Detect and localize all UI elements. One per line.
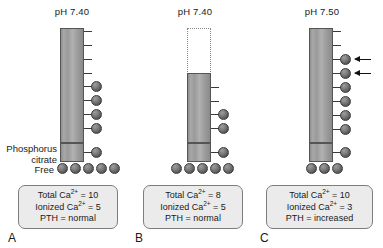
free-calcium-sphere <box>184 163 195 174</box>
bar-tick <box>211 101 219 102</box>
free-label: Free <box>0 164 54 175</box>
protein-bound-bar-b <box>187 73 211 143</box>
free-calcium-sphere <box>96 163 107 174</box>
total-calcium-label: Total Ca <box>289 190 322 200</box>
pth-row: PTH = normal <box>144 213 242 225</box>
phosphorus-citrate-box-b <box>187 143 211 162</box>
free-calcium-sphere <box>57 163 68 174</box>
bound-calcium-sphere <box>340 96 351 107</box>
bar-tick <box>84 31 92 32</box>
charge-superscript: 2+ <box>330 200 337 207</box>
bound-calcium-sphere <box>340 82 351 93</box>
free-calcium-sphere <box>223 163 234 174</box>
total-calcium-row: Total Ca2+ = 10 <box>19 190 117 202</box>
bound-calcium-sphere <box>91 81 102 92</box>
phosphorus-citrate-label: Phosphorus citrate <box>0 143 57 165</box>
complexed-calcium-sphere <box>91 147 102 158</box>
protein-bound-bar-a <box>60 28 84 143</box>
ionized-calcium-value: = 5 <box>213 202 226 212</box>
charge-superscript: 2+ <box>78 200 85 207</box>
bar-tick <box>333 45 341 46</box>
complexed-calcium-sphere <box>218 147 229 158</box>
total-calcium-value: = 8 <box>208 190 221 200</box>
increased-binding-arrow <box>355 73 371 74</box>
free-calcium-sphere <box>109 163 120 174</box>
bar-tick <box>211 87 219 88</box>
bound-calcium-sphere <box>340 124 351 135</box>
free-calcium-sphere <box>332 163 343 174</box>
increased-binding-arrow <box>355 59 371 60</box>
ionized-calcium-value: = 3 <box>340 202 353 212</box>
total-calcium-value: = 10 <box>81 190 99 200</box>
phosphorus-citrate-box-c <box>309 143 333 162</box>
ionized-calcium-label: Ionized Ca <box>35 202 78 212</box>
protein-bound-bar-c <box>309 28 333 143</box>
bar-tick <box>84 73 92 74</box>
bound-calcium-sphere <box>91 123 102 134</box>
free-calcium-sphere <box>197 163 208 174</box>
total-calcium-value: = 10 <box>332 190 350 200</box>
ionized-calcium-row: Ionized Ca2+ = 5 <box>144 202 242 214</box>
bound-calcium-sphere <box>91 109 102 120</box>
panel-letter-c: C <box>260 231 269 245</box>
bar-tick <box>333 31 341 32</box>
bound-calcium-sphere <box>218 109 229 120</box>
bound-calcium-sphere <box>340 54 351 65</box>
bound-calcium-sphere <box>340 110 351 121</box>
calcium-ph-figure: pH 7.40 Phosphorus citrate Free <box>0 0 383 248</box>
panel-a: pH 7.40 Phosphorus citrate Free <box>0 0 128 248</box>
free-calcium-sphere <box>83 163 94 174</box>
free-calcium-sphere <box>319 163 330 174</box>
charge-superscript: 2+ <box>198 188 205 195</box>
bound-calcium-sphere <box>218 123 229 134</box>
free-calcium-sphere <box>171 163 182 174</box>
ionized-calcium-row: Ionized Ca2+ = 5 <box>19 202 117 214</box>
reduced-albumin-ghost-bar-b <box>187 28 211 74</box>
bar-tick <box>84 45 92 46</box>
total-calcium-row: Total Ca2+ = 10 <box>267 190 372 202</box>
phosphorus-label: Phosphorus <box>6 143 57 154</box>
charge-superscript: 2+ <box>203 200 210 207</box>
ionized-calcium-row: Ionized Ca2+ = 3 <box>267 202 372 214</box>
total-calcium-row: Total Ca2+ = 8 <box>144 190 242 202</box>
summary-box-a: Total Ca2+ = 10 Ionized Ca2+ = 5 PTH = n… <box>18 185 118 229</box>
free-calcium-sphere <box>70 163 81 174</box>
pth-row: PTH = increased <box>267 213 372 225</box>
free-calcium-sphere <box>210 163 221 174</box>
complexed-calcium-sphere <box>340 147 351 158</box>
panel-c: pH 7.50 <box>252 0 380 248</box>
total-calcium-label: Total Ca <box>165 190 198 200</box>
panel-b: pH 7.40 Total Ca2+ = 8 Ionized <box>127 0 255 248</box>
panel-letter-b: B <box>135 231 143 245</box>
summary-box-c: Total Ca2+ = 10 Ionized Ca2+ = 3 PTH = i… <box>266 185 373 229</box>
charge-superscript: 2+ <box>71 188 78 195</box>
charge-superscript: 2+ <box>322 188 329 195</box>
free-calcium-sphere <box>306 163 317 174</box>
ionized-calcium-label: Ionized Ca <box>160 202 203 212</box>
bound-calcium-sphere <box>340 68 351 79</box>
total-calcium-label: Total Ca <box>38 190 71 200</box>
summary-box-b: Total Ca2+ = 8 Ionized Ca2+ = 5 PTH = no… <box>143 185 243 229</box>
panel-letter-a: A <box>8 231 16 245</box>
bound-calcium-sphere <box>91 95 102 106</box>
ionized-calcium-label: Ionized Ca <box>287 202 330 212</box>
phosphorus-citrate-box-a <box>60 143 84 162</box>
pth-row: PTH = normal <box>19 213 117 225</box>
bar-tick <box>84 59 92 60</box>
ionized-calcium-value: = 5 <box>88 202 101 212</box>
